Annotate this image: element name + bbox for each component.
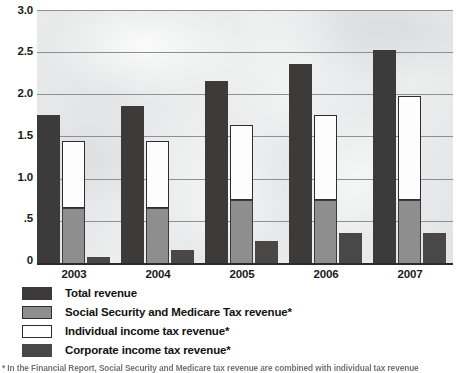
legend-item-individual-income: Individual income tax revenue* bbox=[22, 322, 452, 340]
bar-segment-social-security-2006 bbox=[314, 200, 337, 264]
bar-tax-stack-2006 bbox=[314, 116, 337, 264]
legend-swatch-social-security bbox=[22, 306, 52, 319]
bar-segment-individual-income-2004 bbox=[146, 141, 169, 208]
bar-segment-individual-income-2007 bbox=[398, 96, 421, 200]
bar-segment-social-security-2005 bbox=[230, 200, 253, 264]
bar-tax-stack-2005 bbox=[230, 126, 253, 264]
bar-total-revenue-2003 bbox=[37, 115, 60, 264]
bar-total-revenue-2007 bbox=[373, 50, 396, 264]
x-tick-label-2004: 2004 bbox=[121, 268, 195, 280]
bar-corporate-income-2007 bbox=[423, 233, 446, 264]
y-tick-label: 0 bbox=[3, 255, 33, 267]
legend-item-social-security: Social Security and Medicare Tax revenue… bbox=[22, 303, 452, 321]
x-tick-label-2007: 2007 bbox=[373, 268, 447, 280]
legend-item-corporate-income: Corporate income tax revenue* bbox=[22, 341, 452, 359]
bar-group-2007 bbox=[373, 10, 447, 264]
bar-total-revenue-2005 bbox=[205, 81, 228, 264]
x-tick-label-2006: 2006 bbox=[289, 268, 363, 280]
bar-segment-individual-income-2006 bbox=[314, 115, 337, 200]
bar-group-2004 bbox=[121, 10, 195, 264]
bar-tax-stack-2003 bbox=[62, 142, 85, 264]
y-tick-label: .5 bbox=[3, 213, 33, 225]
y-tick-label: 1.0 bbox=[3, 172, 33, 184]
x-tick-label-2005: 2005 bbox=[205, 268, 279, 280]
bar-segment-social-security-2003 bbox=[62, 208, 85, 264]
bar-segment-social-security-2007 bbox=[398, 200, 421, 264]
y-tick-label: 1.5 bbox=[3, 130, 33, 142]
legend-label-individual-income: Individual income tax revenue* bbox=[65, 325, 229, 337]
legend-item-total-revenue: Total revenue bbox=[22, 284, 452, 302]
bar-segment-individual-income-2003 bbox=[62, 141, 85, 208]
bar-tax-stack-2007 bbox=[398, 97, 421, 264]
bar-total-revenue-2004 bbox=[121, 106, 144, 264]
bar-segment-social-security-2004 bbox=[146, 208, 169, 264]
bar-group-2005 bbox=[205, 10, 279, 264]
bar-corporate-income-2005 bbox=[255, 241, 278, 264]
bar-corporate-income-2006 bbox=[339, 233, 362, 264]
y-tick-label: 2.0 bbox=[3, 88, 33, 100]
chart-legend: Total revenue Social Security and Medica… bbox=[22, 284, 452, 360]
legend-label-total-revenue: Total revenue bbox=[65, 287, 137, 299]
legend-swatch-total-revenue bbox=[22, 287, 52, 300]
bar-group-2003 bbox=[37, 10, 111, 264]
legend-swatch-corporate-income bbox=[22, 344, 52, 357]
plot-area bbox=[37, 10, 453, 264]
chart-footnote: * In the Financial Report, Social Securi… bbox=[2, 363, 460, 373]
legend-label-social-security: Social Security and Medicare Tax revenue… bbox=[65, 306, 292, 318]
y-tick-label: 2.5 bbox=[3, 46, 33, 58]
x-axis-baseline bbox=[37, 263, 453, 265]
bar-group-2006 bbox=[289, 10, 363, 264]
revenue-bar-chart: 3.0 2.5 2.0 1.5 1.0 .5 0 bbox=[0, 0, 460, 373]
y-tick-label: 3.0 bbox=[3, 5, 33, 17]
bar-tax-stack-2004 bbox=[146, 142, 169, 264]
legend-swatch-individual-income bbox=[22, 325, 52, 338]
bar-total-revenue-2006 bbox=[289, 64, 312, 264]
bar-corporate-income-2004 bbox=[171, 250, 194, 264]
legend-label-corporate-income: Corporate income tax revenue* bbox=[65, 344, 231, 356]
x-tick-label-2003: 2003 bbox=[37, 268, 111, 280]
bar-segment-individual-income-2005 bbox=[230, 125, 253, 200]
